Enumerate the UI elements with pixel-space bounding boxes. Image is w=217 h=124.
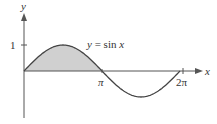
x-tick-label-pi: π — [98, 76, 104, 88]
sine-chart: y x 1 π 2π y = sin x — [0, 0, 217, 124]
x-axis-label: x — [204, 65, 210, 77]
y-axis-label: y — [20, 0, 26, 12]
function-label: y = sin x — [86, 38, 124, 50]
x-tick-label-2pi: 2π — [176, 76, 188, 88]
x-axis-arrow-icon — [195, 68, 203, 74]
y-tick-label-1: 1 — [10, 39, 16, 51]
y-axis-arrow-icon — [21, 13, 27, 21]
